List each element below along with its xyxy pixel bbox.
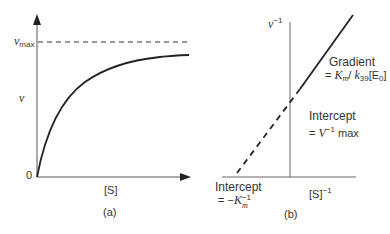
x-intercept-km-sub: m: [242, 199, 248, 212]
s-inverse-sup: −1: [322, 186, 331, 195]
y-intercept-v-sup: −1: [326, 125, 335, 134]
panel-a-y-axis-arrow-icon: [33, 14, 41, 25]
michaelis-menten-curve: [37, 55, 189, 177]
panel-b-y-axis-label: v−1: [268, 15, 282, 30]
panel-a-x-axis-label: [S]: [104, 184, 117, 196]
x-intercept-equation: = −K−1m: [218, 194, 262, 207]
v-inverse-sup: −1: [273, 16, 282, 25]
gradient-equation: = Km/ k39[E0]: [325, 69, 387, 85]
panel-a-x-axis-arrow-icon: [180, 173, 191, 181]
origin-label: 0: [26, 169, 32, 181]
panel-b-caption: (b): [284, 208, 297, 220]
y-intercept-v: V: [318, 126, 325, 140]
x-intercept-eq: = −: [218, 194, 234, 206]
x-intercept-km-subsup: −1m: [242, 194, 250, 206]
y-intercept-max: max: [335, 127, 359, 139]
panel-a-y-axis-label: v: [19, 92, 24, 104]
s-inverse-main: [S]: [309, 188, 322, 200]
panel-b-x-axis-label: [S]−1: [309, 185, 332, 200]
vmax-label: vmax: [14, 35, 34, 51]
y-intercept-label: Intercept = V−1 max: [309, 110, 359, 140]
panel-a-caption: (a): [103, 206, 116, 218]
x-intercept-label: Intercept = −K−1m: [215, 181, 262, 207]
gradient-k-sub: 39: [360, 74, 369, 83]
x-intercept-km: K: [234, 193, 242, 207]
y-intercept-title: Intercept: [309, 110, 359, 123]
gradient-e-close: ]: [384, 69, 387, 81]
vmax-sub: max: [19, 40, 34, 49]
y-intercept-equation: = V−1 max: [309, 123, 359, 140]
gradient-e: [E: [369, 69, 379, 81]
gradient-km: K: [334, 68, 342, 82]
gradient-label: Gradient = Km/ k39[E0]: [329, 56, 387, 85]
